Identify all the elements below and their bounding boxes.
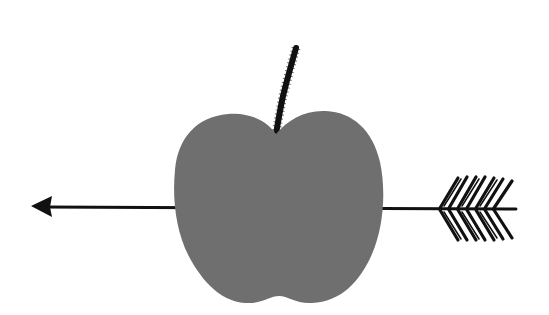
arrowhead-icon xyxy=(31,196,52,217)
apple-arrow-illustration xyxy=(0,0,549,315)
apple-icon xyxy=(174,111,383,303)
